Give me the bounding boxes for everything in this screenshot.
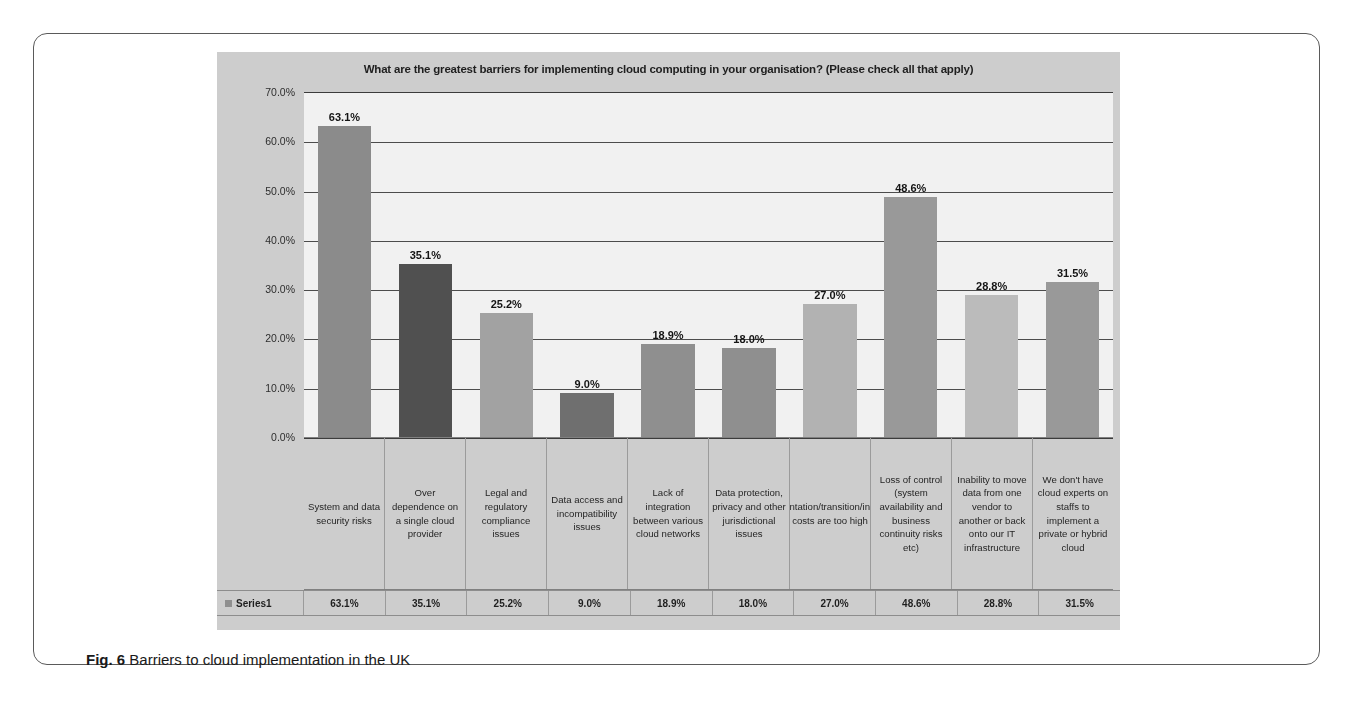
- category-label: System and data security risks: [304, 438, 385, 589]
- table-value-cell: 18.9%: [631, 591, 713, 615]
- plot-area: [304, 92, 1113, 437]
- gridline: [304, 192, 1113, 193]
- y-axis-tick: 50.0%: [265, 185, 295, 197]
- legend-series1: Series1: [217, 591, 304, 615]
- category-axis-labels: System and data security risksOver depen…: [304, 437, 1113, 590]
- gridline: [304, 290, 1113, 291]
- category-label: Over dependence on a single cloud provid…: [385, 438, 466, 589]
- y-axis-tick: 0.0%: [271, 431, 295, 443]
- table-value-cell: 31.5%: [1039, 591, 1120, 615]
- y-axis-tick: 40.0%: [265, 234, 295, 246]
- y-axis: 70.0%60.0%50.0%40.0%30.0%20.0%10.0%0.0%: [217, 92, 301, 437]
- category-label: Inability to move data from one vendor t…: [952, 438, 1033, 589]
- table-value-cell: 28.8%: [958, 591, 1040, 615]
- y-axis-tick: 30.0%: [265, 283, 295, 295]
- caption-text: Barriers to cloud implementation in the …: [129, 651, 410, 668]
- y-axis-tick: 20.0%: [265, 332, 295, 344]
- category-label: Data access and incompatibility issues: [547, 438, 628, 589]
- data-table-row: Series1 63.1%35.1%25.2%9.0%18.9%18.0%27.…: [217, 590, 1120, 616]
- table-value-cell: 48.6%: [876, 591, 958, 615]
- chart-graphic: What are the greatest barriers for imple…: [217, 52, 1120, 630]
- category-label: Lack of integration between various clou…: [628, 438, 709, 589]
- table-value-cell: 18.0%: [713, 591, 795, 615]
- legend-label: Series1: [236, 598, 272, 609]
- gridline: [304, 241, 1113, 242]
- table-value-cell: 25.2%: [467, 591, 549, 615]
- table-value-cell: 35.1%: [386, 591, 468, 615]
- category-label: Loss of control (system availability and…: [871, 438, 952, 589]
- gridline: [304, 389, 1113, 390]
- y-axis-tick: 60.0%: [265, 135, 295, 147]
- y-axis-tick: 10.0%: [265, 382, 295, 394]
- table-value-cell: 27.0%: [794, 591, 876, 615]
- figure-card: What are the greatest barriers for imple…: [33, 33, 1320, 665]
- chart-title: What are the greatest barriers for imple…: [217, 52, 1120, 86]
- caption-label: Fig. 6: [86, 651, 125, 668]
- table-value-cell: 63.1%: [304, 591, 386, 615]
- gridline: [304, 142, 1113, 143]
- figure-caption: Fig. 6 Barriers to cloud implementation …: [86, 651, 410, 668]
- table-value-cell: 9.0%: [549, 591, 631, 615]
- category-label: We don't have cloud experts on staffs to…: [1033, 438, 1113, 589]
- category-label: Data protection, privacy and other juris…: [709, 438, 790, 589]
- category-label: Legal and regulatory compliance issues: [466, 438, 547, 589]
- y-axis-tick: 70.0%: [265, 86, 295, 98]
- legend-swatch-icon: [225, 600, 232, 607]
- gridline: [304, 339, 1113, 340]
- category-label: Implementation/transition/integration co…: [790, 438, 871, 589]
